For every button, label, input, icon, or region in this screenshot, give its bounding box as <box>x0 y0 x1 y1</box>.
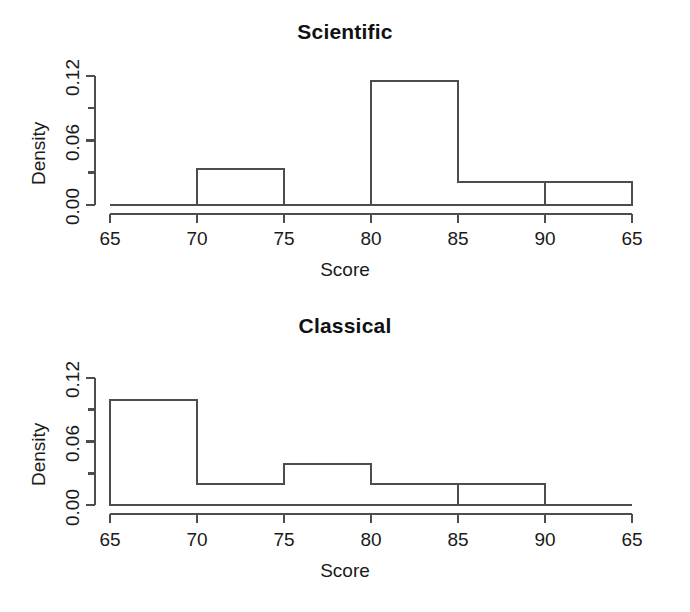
panel-scientific: Scientific Density Score <box>0 0 690 300</box>
x-tick-label-c-3: 80 <box>360 529 381 551</box>
x-tick-label-s-3: 80 <box>360 228 381 250</box>
x-tick-label-c-2: 75 <box>273 529 294 551</box>
x-tick-label-s-1: 70 <box>186 228 207 250</box>
x-tick-label-s-5: 90 <box>534 228 555 250</box>
y-tick-label-s-2: 0.00 <box>62 188 84 225</box>
x-tick-label-c-0: 65 <box>99 529 120 551</box>
plot-svg-classical <box>0 300 690 612</box>
plot-svg-scientific <box>0 0 690 300</box>
x-tick-label-c-1: 70 <box>186 529 207 551</box>
x-tick-label-s-0: 65 <box>99 228 120 250</box>
x-tick-label-s-6: 65 <box>621 228 642 250</box>
plot-canvas-scientific <box>0 0 690 300</box>
y-tick-label-s-0: 0.12 <box>62 59 84 96</box>
y-tick-label-c-0: 0.12 <box>62 361 84 398</box>
x-tick-label-c-5: 90 <box>534 529 555 551</box>
y-tick-label-c-1: 0.06 <box>62 425 84 462</box>
plot-canvas-classical <box>0 300 690 612</box>
x-tick-label-c-6: 65 <box>621 529 642 551</box>
x-tick-label-s-2: 75 <box>273 228 294 250</box>
x-tick-label-c-4: 85 <box>447 529 468 551</box>
histogram-bars-scientific <box>110 81 632 205</box>
y-tick-label-c-2: 0.00 <box>62 489 84 526</box>
histogram-bars-classical <box>110 400 632 505</box>
panel-classical: Classical Density Score <box>0 300 690 612</box>
x-tick-label-s-4: 85 <box>447 228 468 250</box>
y-tick-label-s-1: 0.06 <box>62 124 84 161</box>
histogram-figure: Scientific Density Score <box>0 0 690 612</box>
